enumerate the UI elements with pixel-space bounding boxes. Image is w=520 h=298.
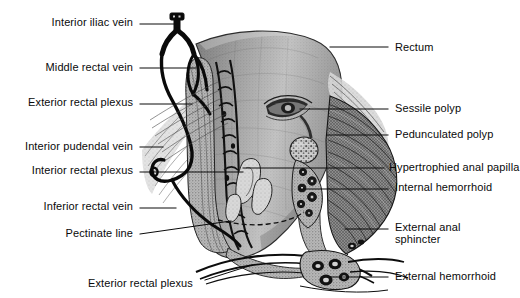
label-exterior-rectal-plexus-lower: Exterior rectal plexus [88,277,193,289]
illustration-canvas: Interior iliac veinMiddle rectal veinExt… [0,0,520,298]
labels-bottom-group: Exterior rectal plexus [0,0,520,298]
